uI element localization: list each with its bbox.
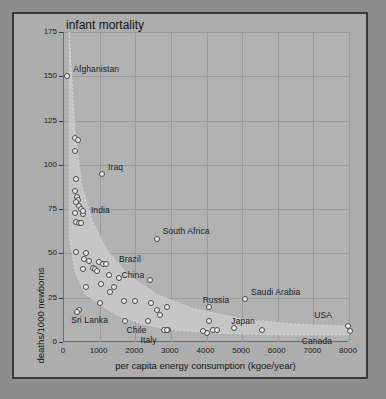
x-tick-label: 1000 — [79, 346, 119, 355]
x-tick-label: 3000 — [150, 346, 190, 355]
data-point — [206, 318, 212, 324]
y-tick-label: 125 — [37, 116, 57, 125]
data-point-labeled — [154, 236, 160, 242]
data-point — [164, 304, 170, 310]
chart-container: infant mortality AfghanistanIraqIndiaSou… — [0, 0, 386, 399]
data-point-labeled — [347, 328, 353, 334]
point-label: South Africa — [163, 226, 210, 236]
x-tick-label: 6000 — [257, 346, 297, 355]
y-tick-mark — [59, 121, 63, 122]
point-label: Brazil — [119, 254, 141, 264]
data-point — [97, 300, 103, 306]
point-label: Saudi Arabia — [251, 287, 300, 297]
y-tick-label: 175 — [37, 27, 57, 36]
x-tick-label: 5000 — [221, 346, 261, 355]
data-point-labeled — [122, 318, 128, 324]
data-point — [75, 137, 81, 143]
y-axis-label-wrap: deaths/1000 newborns — [22, 130, 36, 250]
x-tick-label: 0 — [43, 346, 83, 355]
data-point-labeled — [106, 272, 112, 278]
y-tick-mark — [59, 76, 63, 77]
point-label: Canada — [302, 336, 332, 346]
x-axis-label: per capita energy consumption (kgoe/year… — [63, 360, 348, 371]
y-tick-mark — [59, 165, 63, 166]
data-point-labeled — [80, 208, 86, 214]
y-tick-mark — [59, 32, 63, 33]
data-point — [72, 210, 78, 216]
y-tick-mark — [59, 298, 63, 299]
y-tick-mark — [59, 253, 63, 254]
point-label: Russia — [203, 295, 230, 305]
figure-canvas: infant mortality AfghanistanIraqIndiaSou… — [0, 0, 386, 399]
data-point — [86, 258, 92, 264]
x-tick-label: 2000 — [114, 346, 154, 355]
data-point — [98, 281, 104, 287]
x-tick-label: 7000 — [292, 346, 332, 355]
point-label: Sri Lanka — [71, 315, 108, 325]
point-label: Afghanistan — [73, 64, 119, 74]
plot-area: AfghanistanIraqIndiaSouth AfricaBrazilCh… — [63, 32, 348, 342]
point-label: USA — [314, 310, 332, 320]
y-tick-mark — [59, 342, 63, 343]
chart-title: infant mortality — [66, 18, 144, 32]
y-tick-mark — [59, 209, 63, 210]
y-axis-label: deaths/1000 newborns — [35, 256, 46, 376]
data-point — [132, 298, 138, 304]
gridline-vertical — [349, 32, 350, 342]
point-label: Japan — [231, 316, 255, 326]
y-tick-label: 75 — [37, 204, 57, 213]
point-label: Iraq — [108, 162, 123, 172]
data-point — [148, 300, 154, 306]
point-label: India — [91, 205, 110, 215]
x-tick-label: 4000 — [186, 346, 226, 355]
data-point — [72, 148, 78, 154]
data-point — [259, 327, 265, 333]
data-point-labeled — [164, 327, 170, 333]
point-label: Chile — [127, 325, 147, 335]
point-label: China — [122, 270, 145, 280]
data-point-labeled — [99, 171, 105, 177]
data-point — [214, 327, 220, 333]
data-point — [145, 318, 151, 324]
x-tick-label: 8000 — [328, 346, 368, 355]
point-label: Italy — [141, 335, 157, 345]
y-tick-label: 150 — [37, 71, 57, 80]
data-point — [73, 249, 79, 255]
y-tick-label: 100 — [37, 160, 57, 169]
